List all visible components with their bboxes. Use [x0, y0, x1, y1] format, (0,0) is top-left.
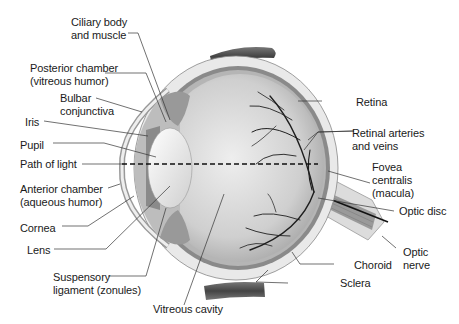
label-lens: Lens	[27, 244, 50, 257]
label-vitreous-cavity: Vitreous cavity	[153, 303, 223, 316]
label-retina: Retina	[356, 96, 387, 109]
label-suspensory-ligament: Suspensory ligament (zonules)	[53, 271, 141, 297]
label-cornea: Cornea	[20, 222, 55, 235]
label-retinal-vessels: Retinal arteries and veins	[352, 127, 424, 153]
inferior-muscle	[204, 282, 265, 300]
label-ciliary-body: Ciliary body and muscle	[71, 16, 127, 42]
label-path-of-light: Path of light	[20, 158, 77, 171]
label-fovea-centralis: Fovea centralis (macula)	[372, 161, 414, 200]
label-posterior-chamber: Posterior chamber (vitreous humor)	[30, 62, 118, 88]
lens-shape	[148, 128, 192, 208]
label-pupil: Pupil	[20, 139, 44, 152]
label-optic-nerve: Optic nerve	[403, 246, 430, 272]
label-anterior-chamber: Anterior chamber (aqueous humor)	[20, 183, 103, 209]
label-optic-disc: Optic disc	[399, 205, 446, 218]
label-iris: Iris	[25, 116, 39, 129]
label-sclera: Sclera	[340, 277, 371, 290]
label-choroid: Choroid	[354, 259, 392, 272]
label-bulbar-conjunctiva: Bulbar conjunctiva	[60, 92, 114, 118]
